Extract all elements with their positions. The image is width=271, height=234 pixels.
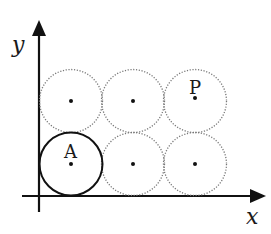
x-axis-label: x [246, 204, 259, 229]
center-points [69, 96, 197, 166]
center-dot-r0-c1 [131, 162, 135, 166]
y-axis-arrow-icon [32, 20, 46, 36]
center-dot-r1-c0 [69, 99, 73, 103]
point-label-a: A [63, 141, 78, 162]
center-dot-a [69, 162, 73, 166]
y-axis-label: y [11, 32, 25, 57]
center-dot-r1-c1 [131, 99, 135, 103]
diagram-svg: y x A P [0, 0, 271, 234]
diagram-canvas: y x A P [0, 0, 271, 234]
x-axis-arrow-icon [250, 189, 266, 203]
center-dot-r0-c2 [193, 162, 197, 166]
point-label-p: P [189, 77, 201, 98]
